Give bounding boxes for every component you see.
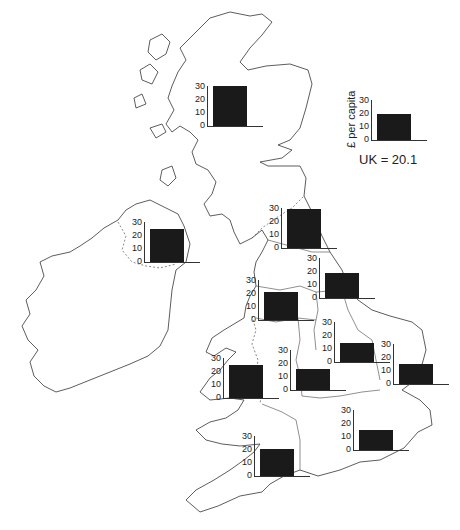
- tick-label: 30: [357, 96, 369, 105]
- y-axis: [207, 86, 208, 126]
- uk-average-label: UK = 20.1: [359, 152, 417, 167]
- tick-label: 20: [320, 331, 332, 340]
- tick-label: 10: [130, 244, 142, 253]
- tick-label: 30: [276, 346, 288, 355]
- tick-label: 10: [240, 458, 252, 467]
- y-axis: [223, 358, 224, 398]
- region-chart-east-anglia: 3020100: [379, 344, 449, 392]
- x-axis: [258, 320, 314, 321]
- tick-label: 20: [267, 217, 279, 226]
- tick-label: 20: [357, 109, 369, 118]
- lewis-coastline: [134, 94, 146, 108]
- tick-label: 30: [244, 276, 256, 285]
- tick-label: 0: [357, 135, 369, 144]
- x-axis: [144, 262, 200, 263]
- tick-label: 20: [193, 95, 205, 104]
- tick-label: 0: [339, 445, 351, 454]
- tick-label: 10: [209, 380, 221, 389]
- tick-label: 10: [276, 372, 288, 381]
- y-axis: [290, 350, 291, 390]
- tick-label: 0: [379, 379, 391, 388]
- value-bar: [229, 365, 263, 398]
- value-bar: [359, 430, 393, 450]
- tick-label: 10: [193, 108, 205, 117]
- value-bar: [287, 209, 321, 248]
- region-chart-north-west: 3020100: [244, 280, 314, 328]
- tick-label: 0: [193, 121, 205, 130]
- tick-label: 30: [320, 318, 332, 327]
- value-bar: [150, 229, 184, 262]
- tick-label: 10: [357, 122, 369, 131]
- x-axis: [223, 398, 279, 399]
- y-axis: [281, 208, 282, 248]
- region-chart-yorkshire-and-humberside: 3020100: [305, 258, 375, 306]
- tick-label: 30: [379, 340, 391, 349]
- tick-label: 20: [379, 353, 391, 362]
- tick-label: 10: [267, 230, 279, 239]
- value-bar: [213, 86, 247, 126]
- value-bar: [325, 273, 359, 298]
- region-chart-south-west: 3020100: [240, 436, 310, 484]
- tick-label: 20: [209, 367, 221, 376]
- x-axis: [371, 140, 427, 141]
- tick-label: 30: [193, 82, 205, 91]
- y-axis: [144, 222, 145, 262]
- tick-label: 0: [130, 257, 142, 266]
- legend-ylabel: £ per capita: [345, 91, 357, 148]
- y-axis: [258, 280, 259, 320]
- value-bar: [399, 364, 433, 384]
- value-bar: [296, 369, 330, 390]
- legend: £ per capita 30 20 10 0 UK = 20.1: [351, 100, 451, 170]
- tick-label: 10: [339, 432, 351, 441]
- hebrides-coastline: [148, 34, 170, 60]
- x-axis: [281, 248, 337, 249]
- y-axis: [393, 344, 394, 384]
- tick-label: 20: [240, 445, 252, 454]
- region-chart-west-midlands: 3020100: [276, 350, 346, 398]
- skye-coastline: [140, 64, 158, 84]
- region-chart-south-east: 3020100: [339, 410, 409, 458]
- tick-label: 0: [276, 385, 288, 394]
- y-axis: [353, 410, 354, 450]
- tick-label: 0: [209, 393, 221, 402]
- mull-coastline: [150, 124, 166, 138]
- tick-label: 20: [305, 267, 317, 276]
- x-axis: [353, 450, 409, 451]
- tick-label: 30: [130, 218, 142, 227]
- tick-label: 0: [267, 243, 279, 252]
- tick-label: 20: [339, 419, 351, 428]
- region-chart-northern-ireland: 3020100: [130, 222, 200, 270]
- value-bar: [260, 449, 294, 476]
- tick-label: 30: [305, 254, 317, 263]
- y-axis: [254, 436, 255, 476]
- tick-label: 30: [339, 406, 351, 415]
- tick-label: 20: [244, 289, 256, 298]
- value-bar: [264, 292, 298, 320]
- x-axis: [319, 298, 375, 299]
- legend-chart: 30 20 10 0: [357, 100, 427, 148]
- tick-label: 0: [240, 471, 252, 480]
- x-axis: [290, 390, 346, 391]
- region-chart-north: 3020100: [267, 208, 337, 256]
- tick-label: 30: [209, 354, 221, 363]
- tick-label: 0: [244, 315, 256, 324]
- tick-label: 10: [379, 366, 391, 375]
- tick-label: 10: [244, 302, 256, 311]
- region-chart-scotland: 3020100: [193, 86, 263, 134]
- tick-label: 20: [276, 359, 288, 368]
- y-axis: [371, 100, 372, 140]
- x-axis: [207, 126, 263, 127]
- y-axis: [319, 258, 320, 298]
- tick-label: 30: [267, 204, 279, 213]
- region-chart-wales: 3020100: [209, 358, 279, 406]
- tick-label: 30: [240, 432, 252, 441]
- x-axis: [254, 476, 310, 477]
- islay-coastline: [160, 166, 176, 186]
- tick-label: 20: [130, 231, 142, 240]
- uk-average-bar: [377, 114, 411, 140]
- x-axis: [393, 384, 449, 385]
